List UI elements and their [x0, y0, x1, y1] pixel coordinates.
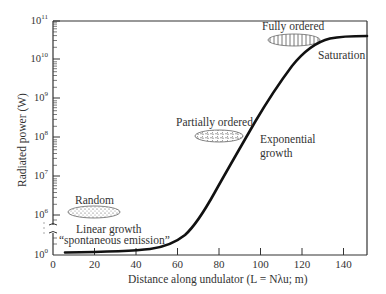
chart-canvas — [0, 0, 386, 294]
fully-ordered-ellipse — [268, 34, 320, 46]
xtick-140: 140 — [329, 259, 359, 270]
random-ellipse — [68, 206, 120, 218]
annotation-spontaneous-emission: “spontaneous emission” — [59, 235, 170, 247]
xtick-0: 0 — [38, 259, 68, 270]
radiated-power-curve — [65, 36, 367, 253]
xtick-100: 100 — [246, 259, 276, 270]
annotation-random: Random — [75, 195, 114, 207]
annotation-saturation: Saturation — [318, 50, 365, 62]
annotation-fully-ordered: Fully ordered — [262, 21, 324, 33]
annotation-exponential: Exponential — [260, 134, 316, 146]
xtick-60: 60 — [163, 259, 193, 270]
y-axis-label: Radiated power (W) — [16, 85, 28, 195]
annotation-growth: growth — [260, 148, 293, 160]
partially-ordered-ellipse — [195, 130, 243, 142]
xtick-40: 40 — [121, 259, 151, 270]
xtick-20: 20 — [80, 259, 110, 270]
ytick-1e10: 1010 — [18, 52, 48, 65]
annotation-partially-ordered: Partially ordered — [176, 117, 253, 129]
axis-break-dots — [43, 222, 44, 233]
ytick-1e11: 1011 — [18, 14, 48, 27]
xtick-120: 120 — [287, 259, 317, 270]
xtick-80: 80 — [204, 259, 234, 270]
ytick-1e6: 106 — [18, 208, 48, 221]
x-axis-label: Distance along undulator (L = Nλu; m) — [128, 273, 308, 285]
